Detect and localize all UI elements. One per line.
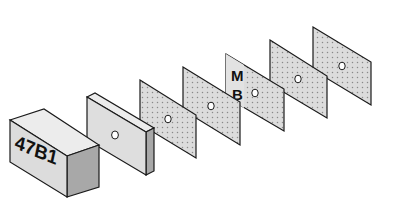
plate-label-m: M xyxy=(231,67,244,84)
label-block: 47B1 xyxy=(10,109,99,197)
diagram-canvas: M B 47B1 xyxy=(0,0,395,207)
exploded-view-svg: M B 47B1 xyxy=(0,0,395,207)
